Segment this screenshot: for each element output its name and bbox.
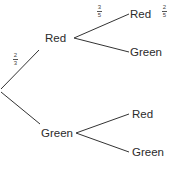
branch-green-to-green [76,133,129,152]
side-note-fraction: 2 5 [162,4,167,18]
node-red-red: Red [130,8,151,20]
branch-root-to-green [1,92,40,124]
branch-red-to-green [74,38,129,52]
probability-red-red: 3 5 [97,4,102,18]
node-red-level1: Red [45,32,66,44]
node-red-green: Green [130,46,162,58]
denominator: 3 [14,60,17,66]
denominator: 5 [163,12,166,18]
numerator: 3 [98,4,101,10]
denominator: 5 [98,12,101,18]
branch-green-to-red [76,114,129,133]
probability-red-level1: 2 3 [13,52,18,66]
numerator: 2 [163,4,166,10]
node-green-red: Red [132,108,153,120]
branch-root-to-red [1,50,39,89]
node-green-level1: Green [41,127,73,139]
node-green-green: Green [132,146,164,158]
numerator: 2 [14,52,17,58]
